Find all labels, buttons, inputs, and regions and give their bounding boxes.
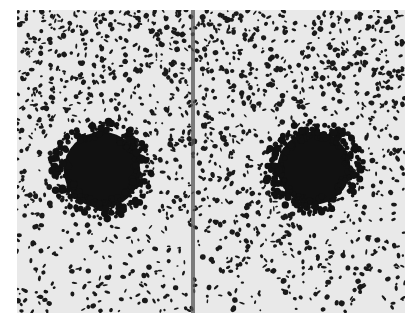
speckle-photograph <box>17 10 405 313</box>
speckle-canvas <box>17 10 405 313</box>
